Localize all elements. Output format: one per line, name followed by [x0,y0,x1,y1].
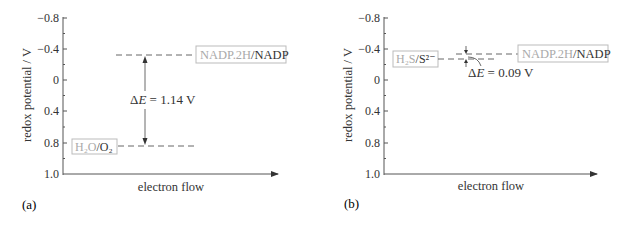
reduced-species: NADP.2H [200,48,251,62]
y-axis-title: redox potential / V [341,48,355,142]
svg-text:H₂S/S²⁻: H₂S/S²⁻ [396,52,435,66]
y-tick-label: 0.8 [44,136,59,150]
svg-text:NADP.2H/NADP: NADP.2H/NADP [200,48,289,62]
nadp-couple-box: NADP.2H/NADP [518,45,611,62]
y-axis-ticks [63,18,67,159]
reduced-species: NADP.2H [522,47,573,61]
y-tick-label: −0.4 [37,42,59,56]
oxidized-species: NADP [577,47,611,61]
panel-a: −0.8 −0.4 0 0.4 0.8 1.0 redox potential … [20,11,289,212]
arrowhead-down-icon [464,50,468,54]
y-tick-label: 0 [374,73,380,87]
x-axis-title: electron flow [458,179,524,193]
oxidized-species: O₂ [100,140,113,154]
redox-diagram: −0.8 −0.4 0 0.4 0.8 1.0 redox potential … [0,0,625,225]
delta-e-label: ΔE = 1.14 V [130,92,196,107]
y-tick-label: −0.8 [358,11,380,25]
reduced-species: H₂O [75,140,97,154]
arrowhead-up-icon [464,59,468,63]
svg-text:NADP.2H/NADP: NADP.2H/NADP [522,47,611,61]
y-tick-label: −0.4 [358,42,380,56]
panel-b: −0.8 −0.4 0 0.4 0.8 1.0 redox potential … [341,11,611,211]
delta-e-label: ΔE = 0.09 V [468,65,534,80]
oxidized-species: S²⁻ [419,52,436,66]
panel-label: (a) [22,197,36,212]
y-axis-ticks [384,18,388,159]
panel-label: (b) [344,196,359,211]
arrowhead-down-icon [143,138,148,145]
oxidized-species: NADP [255,48,289,62]
y-tick-label: 0.4 [44,104,59,118]
arrowhead-up-icon [143,56,148,63]
nadp-couple-box: NADP.2H/NADP [196,46,289,63]
y-tick-label: 1.0 [44,167,59,181]
reduced-species: H₂S [396,52,416,66]
y-tick-label: 0.8 [365,136,380,150]
y-axis-title: redox potential / V [20,48,34,142]
y-tick-label: 0 [53,73,59,87]
y-tick-label: −0.8 [37,11,59,25]
water-couple-box: H₂O/O₂ [72,139,117,154]
sulfide-couple-box: H₂S/S²⁻ [393,51,438,67]
svg-text:H₂O/O₂: H₂O/O₂ [75,140,113,154]
y-tick-label: 1.0 [365,167,380,181]
x-axis-title: electron flow [138,180,204,194]
y-tick-label: 0.4 [365,104,380,118]
